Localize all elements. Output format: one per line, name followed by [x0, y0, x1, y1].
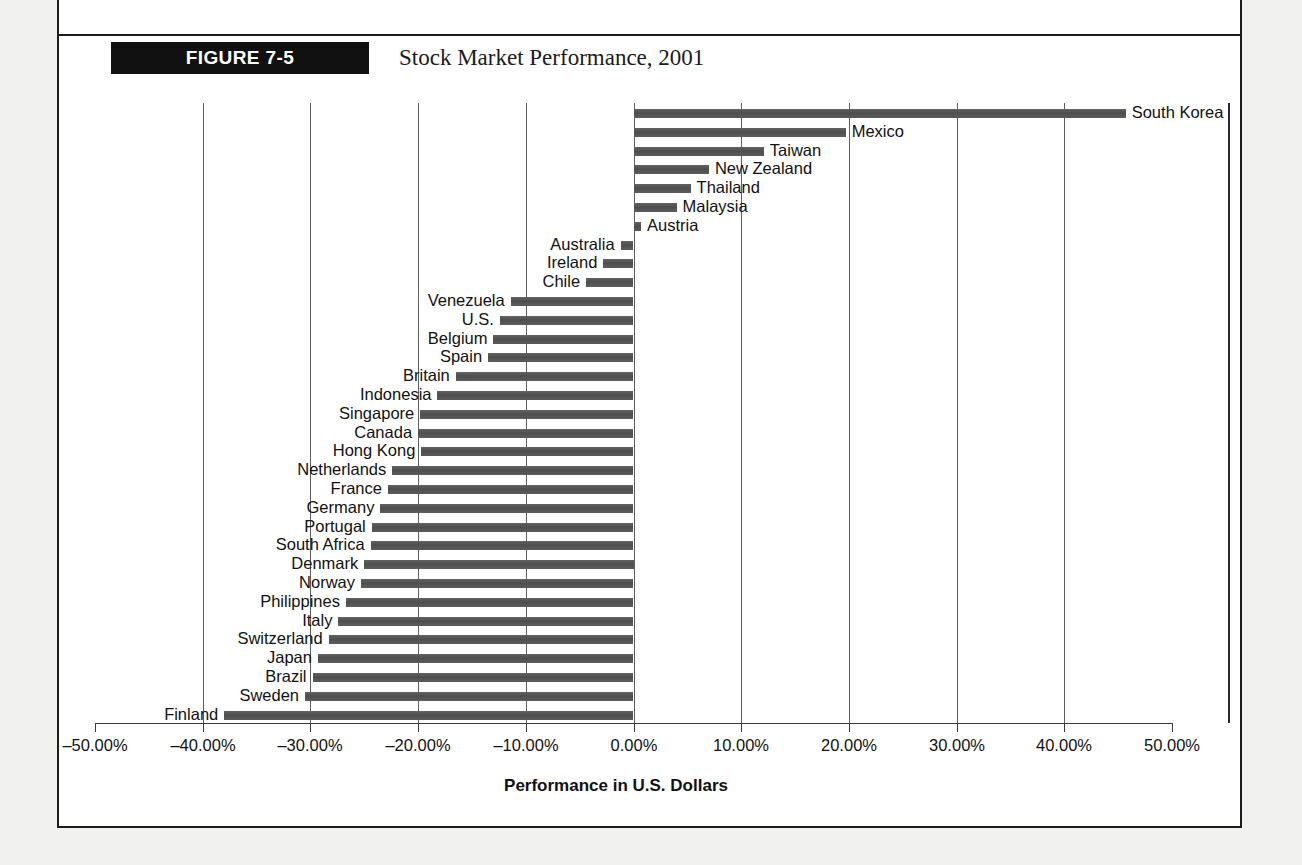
figure-header: FIGURE 7-5 Stock Market Performance, 200… — [59, 42, 1240, 74]
figure-frame — [57, 0, 1242, 828]
figure-page: FIGURE 7-5 Stock Market Performance, 200… — [0, 0, 1302, 865]
figure-top-rule — [57, 34, 1242, 36]
figure-number-badge: FIGURE 7-5 — [111, 42, 369, 74]
figure-title: Stock Market Performance, 2001 — [399, 42, 704, 74]
